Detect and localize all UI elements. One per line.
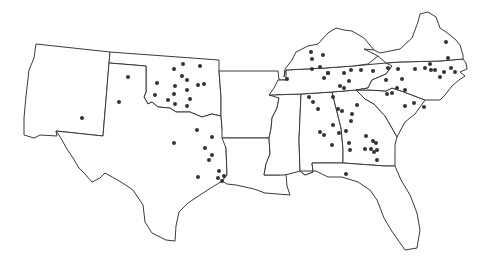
location-dot xyxy=(348,148,352,152)
location-dot xyxy=(222,174,226,178)
location-dot xyxy=(155,81,159,85)
state-new-mexico xyxy=(24,44,110,138)
location-dot xyxy=(153,93,157,97)
location-dot xyxy=(442,70,446,74)
location-dot xyxy=(172,67,176,71)
location-dot xyxy=(359,68,363,72)
location-dot xyxy=(403,88,407,92)
location-dot xyxy=(326,71,330,75)
location-dot xyxy=(355,103,359,107)
location-dot xyxy=(336,107,340,111)
location-dot xyxy=(331,123,335,127)
location-dot xyxy=(309,50,313,54)
location-dot xyxy=(428,62,432,66)
location-dot xyxy=(198,64,202,68)
location-dot xyxy=(344,172,348,176)
location-dot xyxy=(307,95,311,99)
location-dot xyxy=(429,68,433,72)
state-outlines xyxy=(24,12,467,250)
location-dot xyxy=(349,68,353,72)
location-dot xyxy=(216,176,220,180)
location-dot xyxy=(311,100,315,104)
location-dot xyxy=(196,83,200,87)
location-dot xyxy=(369,147,373,151)
location-dot xyxy=(347,141,351,145)
location-dot xyxy=(310,67,314,71)
location-dot xyxy=(331,95,335,99)
location-dot xyxy=(322,76,326,80)
southern-us-map xyxy=(0,0,484,263)
location-dot xyxy=(375,148,379,152)
location-dot xyxy=(396,67,400,71)
location-dot xyxy=(395,86,399,90)
location-dot xyxy=(185,88,189,92)
location-dot xyxy=(412,101,416,105)
location-dot xyxy=(363,147,367,151)
location-dot xyxy=(413,67,417,71)
location-dot xyxy=(364,134,368,138)
location-dot xyxy=(220,179,224,183)
location-dot xyxy=(344,129,348,133)
location-dot xyxy=(126,75,130,79)
location-dot xyxy=(185,104,189,108)
location-dot xyxy=(444,40,448,44)
location-dot xyxy=(173,102,177,106)
location-dot xyxy=(207,158,211,162)
location-dot xyxy=(322,133,326,137)
location-dot xyxy=(342,86,346,90)
location-dot xyxy=(166,98,170,102)
location-dot xyxy=(310,57,314,61)
location-dot xyxy=(374,141,378,145)
location-dot xyxy=(188,97,192,101)
location-dot xyxy=(384,78,388,82)
location-dot xyxy=(371,69,375,73)
location-dot xyxy=(349,119,353,123)
location-dot xyxy=(318,130,322,134)
location-dot xyxy=(321,53,325,57)
location-dot xyxy=(446,56,450,60)
location-dot xyxy=(400,77,404,81)
location-dot xyxy=(173,84,177,88)
location-dot xyxy=(403,104,407,108)
location-dot xyxy=(433,68,437,72)
location-dot xyxy=(180,74,184,78)
location-dot xyxy=(330,143,334,147)
location-dot xyxy=(196,175,200,179)
location-dot xyxy=(340,109,344,113)
location-dot xyxy=(342,71,346,75)
location-dot xyxy=(181,62,185,66)
location-dot xyxy=(449,66,453,70)
location-dot xyxy=(195,128,199,132)
location-dot xyxy=(285,77,289,81)
location-dot xyxy=(350,112,354,116)
location-dot xyxy=(210,153,214,157)
location-dot xyxy=(80,116,84,120)
location-dot xyxy=(423,66,427,70)
location-dot xyxy=(438,75,442,79)
location-dot xyxy=(375,158,379,162)
location-dot xyxy=(337,131,341,135)
location-dot xyxy=(386,66,390,70)
state-florida xyxy=(300,163,420,250)
location-dot xyxy=(453,70,457,74)
location-dot xyxy=(202,82,206,86)
location-dot xyxy=(316,107,320,111)
location-dot xyxy=(210,135,214,139)
state-virginia xyxy=(364,12,463,63)
location-dot xyxy=(172,141,176,145)
location-dot xyxy=(185,78,189,82)
location-dot xyxy=(347,79,351,83)
location-dot xyxy=(117,100,121,104)
location-dot xyxy=(318,65,322,69)
location-dot xyxy=(385,92,389,96)
location-dot xyxy=(172,92,176,96)
location-dot xyxy=(217,169,221,173)
location-dot xyxy=(422,105,426,109)
location-dot xyxy=(203,146,207,150)
location-dot xyxy=(338,84,342,88)
location-dot xyxy=(390,91,394,95)
